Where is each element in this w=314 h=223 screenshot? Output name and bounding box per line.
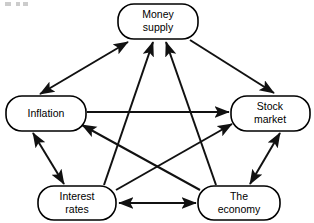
node-the-economy-label-line1: The — [230, 190, 248, 202]
edge-stock-market-the-economy — [250, 133, 280, 184]
edge-inflation-money-supply — [40, 42, 128, 94]
node-stock-market[interactable]: Stock market — [231, 96, 310, 131]
scan-artifact — [4, 1, 38, 8]
node-inflation-label-line1: Inflation — [28, 107, 65, 119]
edge-inflation-interest-rates — [33, 133, 64, 184]
node-money-supply-label-line2: supply — [143, 21, 174, 33]
edge-the-economy-money-supply — [166, 42, 216, 185]
node-interest-rates-label-line2: rates — [65, 203, 88, 215]
node-stock-market-label-line2: market — [254, 113, 286, 125]
diagram-svg: Money supply Inflation Stock market Inte… — [0, 0, 314, 223]
node-the-economy[interactable]: The economy — [198, 186, 280, 220]
edge-the-economy-inflation — [82, 125, 200, 190]
node-inflation[interactable]: Inflation — [6, 96, 86, 131]
edge-money-supply-stock-market — [190, 40, 274, 93]
node-money-supply-label-line1: Money — [142, 8, 174, 20]
diagram-canvas: Money supply Inflation Stock market Inte… — [0, 0, 314, 223]
edge-interest-rates-money-supply — [104, 42, 153, 185]
node-interest-rates-label-line1: Interest — [59, 190, 94, 202]
node-money-supply[interactable]: Money supply — [118, 4, 198, 39]
node-the-economy-label-line2: economy — [218, 203, 261, 215]
node-interest-rates[interactable]: Interest rates — [38, 186, 116, 220]
node-stock-market-label-line1: Stock — [257, 100, 284, 112]
